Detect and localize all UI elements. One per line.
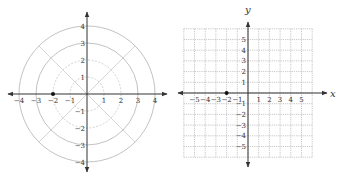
polar-x-tick-label: 4 (153, 97, 158, 105)
rect-x-tick-label: 4 (289, 96, 294, 104)
rect-x-tick-label: −2 (221, 96, 231, 104)
polar-y-tick-label: −1 (75, 108, 85, 116)
rect-y-tick-label: 1 (242, 79, 246, 87)
polar-coordinate-plot: −4−3−2−112344321−1−2−3−4 (8, 12, 167, 172)
polar-x-tick-label: −4 (14, 97, 25, 105)
rect-y-tick-label: −5 (236, 143, 246, 151)
rect-axes (178, 22, 327, 167)
polar-y-tick-label: −2 (75, 125, 85, 133)
polar-y-tick-label: 4 (81, 23, 86, 31)
rect-y-tick-label: −3 (236, 122, 246, 130)
rect-y-tick-label: 3 (242, 57, 246, 65)
polar-plotted-point (51, 92, 55, 96)
plotted-point (225, 91, 229, 95)
rect-x-tick-label: −5 (189, 96, 199, 104)
polar-y-tick-label: 3 (81, 40, 85, 48)
rect-y-tick-label: 2 (242, 68, 246, 76)
rectangular-coordinate-plot: −5−4−3−2−11234554321−1−2−3−4−5 x y (178, 4, 336, 167)
rect-y-tick-label: 5 (242, 36, 246, 44)
polar-x-tick-label: 2 (119, 97, 123, 105)
y-axis-label: y (244, 4, 251, 15)
diagram-canvas: −4−3−2−112344321−1−2−3−4 −5−4−3−2−112345… (0, 0, 340, 178)
polar-x-tick-label: −1 (65, 97, 75, 105)
rect-x-tick-label: 3 (278, 96, 282, 104)
polar-y-tick-label: −3 (75, 142, 85, 150)
polar-axes (8, 12, 167, 172)
rect-y-tick-label: 4 (242, 47, 247, 55)
rect-x-tick-label: 2 (267, 96, 271, 104)
rect-y-tick-label: −4 (236, 132, 247, 140)
polar-x-tick-label: −2 (48, 97, 58, 105)
angle-ray (39, 94, 87, 142)
polar-y-tick-label: 1 (81, 74, 85, 82)
polar-x-tick-label: 1 (102, 97, 106, 105)
rect-x-tick-label: 1 (256, 96, 260, 104)
rect-y-tick-label: −1 (236, 100, 246, 108)
polar-x-tick-label: 3 (136, 97, 140, 105)
plotted-point (51, 92, 55, 96)
rect-x-tick-label: −4 (200, 96, 211, 104)
rect-x-tick-label: 5 (299, 96, 303, 104)
rect-plotted-point (225, 91, 229, 95)
polar-y-tick-label: 2 (81, 57, 85, 65)
polar-x-tick-label: −3 (31, 97, 41, 105)
angle-ray (87, 94, 135, 142)
polar-y-tick-label: −4 (75, 159, 86, 167)
x-axis-label: x (330, 88, 336, 99)
rect-y-tick-label: −2 (236, 111, 246, 119)
rect-x-tick-label: −3 (211, 96, 221, 104)
